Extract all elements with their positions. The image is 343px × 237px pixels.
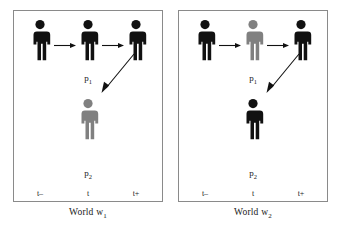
label-p2-sub-w2: 2	[254, 173, 257, 180]
person-p1-t-minus-w1	[27, 19, 53, 61]
time-label-t-w1: t	[75, 189, 101, 198]
arrow-p1-to-p2-w1	[98, 52, 136, 94]
arrow-t-minus-to-t-w2	[219, 41, 241, 50]
arrow-t-to-t-plus-w2	[267, 41, 289, 50]
caption-w2-text: World w	[234, 207, 268, 217]
label-p2-sub-w1: 2	[89, 173, 92, 180]
arrow-t-minus-to-t-w1	[54, 41, 76, 50]
person-p2-t-w2	[240, 98, 266, 140]
time-label-t-minus-w2: t–	[192, 189, 218, 198]
person-p2-t-w1	[75, 98, 101, 140]
person-p1-t-minus-w2	[192, 19, 218, 61]
time-label-t-plus-w1: t+	[123, 189, 149, 198]
label-p1-sub-w2: 1	[254, 78, 257, 85]
arrow-t-to-t-plus-w1	[102, 41, 124, 50]
time-label-t-minus-w1: t–	[27, 189, 53, 198]
time-label-t-plus-w2: t+	[288, 189, 314, 198]
caption-w1-text: World w	[69, 207, 103, 217]
label-p1-w2: p1	[238, 73, 268, 85]
caption-w1-sub: 1	[103, 212, 107, 220]
time-label-t-w2: t	[240, 189, 266, 198]
caption-world-w1: World w1	[12, 207, 164, 220]
diagram-canvas: p1 p2 t– t t+ World w1	[0, 0, 343, 237]
label-p2-w1: p2	[73, 168, 103, 180]
label-p1-sub-w1: 1	[89, 78, 92, 85]
caption-w2-sub: 2	[268, 212, 272, 220]
label-p2-w2: p2	[238, 168, 268, 180]
label-p1-w1: p1	[73, 73, 103, 85]
caption-world-w2: World w2	[177, 207, 329, 220]
arrow-p1-to-p2-w2	[263, 52, 301, 94]
